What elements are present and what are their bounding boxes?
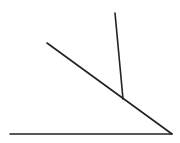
diagram-canvas	[0, 0, 180, 143]
vertical-line	[115, 13, 123, 99]
line-diagram	[0, 0, 180, 143]
diagonal-line	[47, 43, 172, 134]
